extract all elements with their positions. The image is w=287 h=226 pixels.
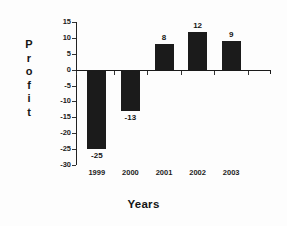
y-axis-tick	[72, 133, 76, 134]
y-axis-tick-label: -15	[47, 113, 71, 121]
y-axis-tick	[72, 149, 76, 150]
y-axis-tick	[72, 54, 76, 55]
bar	[222, 41, 241, 70]
x-axis-tick	[114, 71, 115, 75]
y-axis-tick-label: -30	[47, 161, 71, 169]
y-axis-title: P r o f i t	[18, 38, 40, 119]
y-axis-line	[76, 22, 77, 165]
bar-value-label: 8	[147, 33, 182, 42]
x-axis-tick	[147, 71, 148, 75]
y-axis-tick-labels: 151050-5-10-15-20-25-30	[45, 22, 71, 165]
y-axis-tick-label: -25	[47, 145, 71, 153]
x-axis-end-tick	[270, 70, 271, 74]
y-axis-tick	[72, 86, 76, 87]
y-axis-title-letter: o	[18, 65, 40, 79]
y-axis-tick-label: -20	[47, 129, 71, 137]
bar	[87, 70, 106, 149]
x-axis-category-labels: 19992000200120022003	[76, 168, 271, 180]
x-axis-tick	[248, 71, 249, 75]
y-axis-tick-label: 15	[47, 18, 71, 26]
x-axis-title: Years	[0, 198, 287, 210]
x-axis-tick	[76, 71, 77, 75]
bar-value-label: -13	[113, 113, 148, 122]
x-axis-tick	[214, 71, 215, 75]
y-axis-title-letter: P	[18, 38, 40, 52]
y-axis-title-letter: f	[18, 79, 40, 93]
y-axis-tick-label: -10	[47, 97, 71, 105]
y-axis-title-letter: r	[18, 52, 40, 66]
y-axis-title-letter: t	[18, 106, 40, 120]
bar-value-label: 9	[214, 30, 249, 39]
y-axis-tick-label: 10	[47, 34, 71, 42]
chart-screenshot: P r o f i t 151050-5-10-15-20-25-30 -25-…	[0, 0, 287, 226]
bar-value-label: -25	[79, 151, 114, 160]
y-axis-tick	[72, 101, 76, 102]
bar	[188, 32, 207, 70]
y-axis-tick	[72, 165, 76, 166]
y-axis-tick-label: 5	[47, 50, 71, 58]
y-axis-tick	[72, 38, 76, 39]
bar-value-label: 12	[180, 21, 215, 30]
bar	[121, 70, 140, 111]
y-axis-tick	[72, 117, 76, 118]
y-axis-tick	[72, 22, 76, 23]
y-axis-title-letter: i	[18, 92, 40, 106]
x-axis-category-label: 2003	[210, 168, 252, 177]
plot-area: 151050-5-10-15-20-25-30 -25-138129	[76, 22, 271, 165]
y-axis-tick-label: 0	[47, 66, 71, 74]
y-axis-tick-label: -5	[47, 82, 71, 90]
bar	[155, 44, 174, 69]
x-axis-tick	[181, 71, 182, 75]
